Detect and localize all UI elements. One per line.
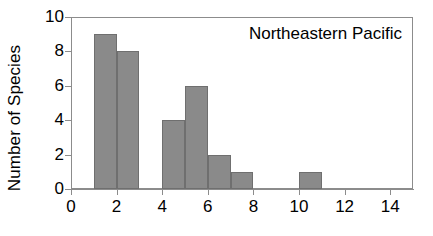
y-tick-label: 0	[18, 180, 64, 197]
bars-container	[71, 17, 413, 189]
y-tick-label: 10	[18, 8, 64, 25]
histogram-bar	[185, 86, 208, 189]
y-tick: 2	[0, 155, 64, 156]
y-tick: 6	[0, 86, 64, 87]
histogram-bar	[94, 34, 117, 189]
x-tick-mark	[299, 189, 300, 195]
x-tick-label: 0	[51, 198, 91, 215]
x-tick-label: 6	[188, 198, 228, 215]
histogram-bar	[299, 172, 322, 189]
y-tick-label: 8	[18, 42, 64, 59]
x-tick-label: 12	[325, 198, 365, 215]
y-tick: 4	[0, 120, 64, 121]
y-tick: 8	[0, 51, 64, 52]
histogram-bar	[231, 172, 254, 189]
histogram-bar	[162, 120, 185, 189]
x-tick-mark	[345, 189, 346, 195]
y-tick-label: 6	[18, 77, 64, 94]
x-tick-label: 2	[97, 198, 137, 215]
histogram-bar	[208, 155, 231, 189]
histogram-figure: Number of Species 0246810 Northeastern P…	[0, 0, 433, 236]
x-tick-mark	[117, 189, 118, 195]
x-axis-line	[71, 189, 414, 190]
y-tick-label: 4	[18, 111, 64, 128]
x-tick-label: 4	[142, 198, 182, 215]
x-tick-mark	[253, 189, 254, 195]
x-tick-mark	[71, 189, 72, 195]
x-tick-label: 10	[279, 198, 319, 215]
x-tick-label: 8	[233, 198, 273, 215]
x-tick-mark	[390, 189, 391, 195]
histogram-bar	[117, 51, 140, 189]
x-tick-label: 14	[370, 198, 410, 215]
x-tick-mark	[208, 189, 209, 195]
x-tick-mark	[162, 189, 163, 195]
y-tick: 0	[0, 189, 64, 190]
y-tick: 10	[0, 17, 64, 18]
y-tick-label: 2	[18, 146, 64, 163]
